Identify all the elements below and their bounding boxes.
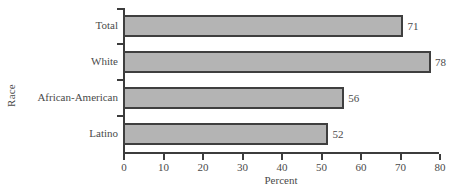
- bar-value-label: 52: [328, 128, 343, 140]
- bar-group: 71: [123, 15, 439, 37]
- x-axis-tick-label: 50: [316, 161, 327, 173]
- x-axis-title: Percent: [123, 174, 439, 186]
- x-axis-tick: [400, 154, 402, 160]
- bar-value-label: 78: [431, 56, 446, 68]
- x-axis-tick: [360, 154, 362, 160]
- plot-area: 71785652: [123, 8, 441, 152]
- x-axis-tick-label: 10: [158, 161, 169, 173]
- bar-group: 52: [123, 123, 439, 145]
- x-axis-tick: [281, 154, 283, 160]
- y-axis-tick: [117, 43, 123, 45]
- x-axis-tick-label: 20: [198, 161, 209, 173]
- category-label: Total: [18, 20, 118, 31]
- y-axis-tick: [117, 8, 123, 10]
- x-axis-tick-label: 80: [435, 161, 446, 173]
- x-axis-tick: [123, 154, 125, 160]
- category-label-column: TotalWhiteAfrican-AmericanLatino: [18, 0, 118, 191]
- bar: [123, 51, 431, 73]
- x-axis-tick: [202, 154, 204, 160]
- x-axis-tick-label: 60: [356, 161, 367, 173]
- y-axis-tick: [117, 115, 123, 117]
- x-axis-tick-label: 40: [277, 161, 288, 173]
- bar-group: 56: [123, 87, 439, 109]
- bar-value-label: 56: [344, 92, 359, 104]
- x-axis-tick: [163, 154, 165, 160]
- x-axis-tick: [439, 154, 441, 160]
- bar-group: 78: [123, 51, 439, 73]
- bar-value-label: 71: [403, 20, 418, 32]
- category-label: Latino: [18, 128, 118, 139]
- x-axis-tick-label: 70: [395, 161, 406, 173]
- category-label: African-American: [18, 92, 118, 103]
- bar: [123, 87, 344, 109]
- bar: [123, 15, 403, 37]
- x-axis-tick: [321, 154, 323, 160]
- x-axis-tick-label: 30: [237, 161, 248, 173]
- category-label: White: [18, 56, 118, 67]
- x-axis-tick-label: 0: [121, 161, 127, 173]
- y-axis-tick: [117, 79, 123, 81]
- bar: [123, 123, 328, 145]
- bar-chart: Race TotalWhiteAfrican-AmericanLatino 71…: [0, 0, 456, 191]
- x-axis-tick: [242, 154, 244, 160]
